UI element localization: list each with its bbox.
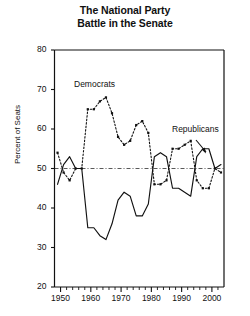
y-tick-label-80: 80: [25, 44, 47, 54]
x-tick-label-1980: 1980: [136, 293, 166, 303]
y-tick-label-30: 30: [25, 242, 47, 252]
republicans-series-label: Republicans: [172, 124, 219, 134]
y-tick-label-50: 50: [25, 163, 47, 173]
x-tick-label-1990: 1990: [167, 293, 197, 303]
x-tick-label-1960: 1960: [76, 293, 106, 303]
y-tick-label-60: 60: [25, 123, 47, 133]
x-tick-label-1970: 1970: [106, 293, 136, 303]
y-tick-label-40: 40: [25, 202, 47, 212]
x-tick-label-1950: 1950: [46, 293, 76, 303]
x-axis-ticks: [61, 287, 218, 292]
y-tick-label-20: 20: [25, 281, 47, 291]
democrats-series-label: Democrats: [74, 79, 115, 89]
x-tick-label-2000: 2000: [197, 293, 227, 303]
series-line-democrats: [56, 96, 222, 189]
y-tick-label-70: 70: [25, 84, 47, 94]
chart-figure: The National Party Battle in the Senate …: [0, 0, 250, 316]
